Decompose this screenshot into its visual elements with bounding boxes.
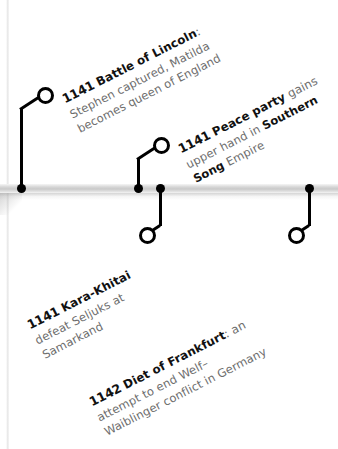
event-label-kara-khitai-samarkand: 1141 Kara-Khitai defeat Seljuks at Samar…: [24, 266, 149, 363]
connector-stem-diagonal: [19, 96, 39, 110]
event-label-peace-party-song: 1141 Peace party gains upper hand in Sou…: [175, 72, 336, 187]
timeline-axis-bar: [0, 184, 338, 193]
event-label-battle-of-lincoln: 1141 Battle of Lincoln: Stephen captured…: [59, 20, 224, 137]
event-circle-battle-of-lincoln[interactable]: [37, 87, 54, 104]
event-dot-peace-party-song[interactable]: [134, 184, 143, 193]
event-circle-peace-party-song[interactable]: [153, 137, 170, 154]
connector-stem-vertical: [20, 108, 23, 188]
event-dot-diet-of-frankfurt[interactable]: [305, 184, 314, 193]
timeline-axis-shadow: [0, 193, 338, 200]
timeline-canvas: 1141 Battle of Lincoln: Stephen captured…: [0, 0, 338, 449]
event-circle-diet-of-frankfurt[interactable]: [288, 227, 305, 244]
event-dot-kara-khitai-samarkand[interactable]: [156, 184, 165, 193]
connector-stem-vertical: [159, 188, 162, 226]
left-edge-guide: [6, 0, 9, 449]
event-dot-battle-of-lincoln[interactable]: [17, 184, 26, 193]
timeline-axis-shadow-corner: [0, 193, 22, 215]
event-circle-kara-khitai-samarkand[interactable]: [139, 227, 156, 244]
event-label-diet-of-frankfurt: 1142 Diet of Frankfurt: an attempt to en…: [86, 313, 269, 440]
connector-stem-vertical: [308, 188, 311, 226]
